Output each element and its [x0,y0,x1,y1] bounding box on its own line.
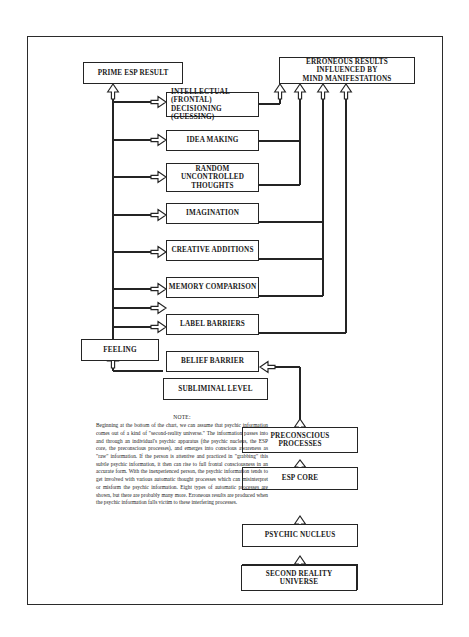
arrowhead-up-prime [108,84,119,99]
box-memory-comparison[interactable]: MEMORY COMPARISON [166,277,259,298]
box-psychic-nucleus[interactable]: PSYCHIC NUCLEUS [242,524,358,547]
box-second-reality-universe[interactable]: SECOND REALITY UNIVERSE [241,565,357,591]
arrowhead-right-8 [151,322,166,333]
box-label-barriers[interactable]: LABEL BARRIERS [166,314,259,335]
box-belief-barrier[interactable]: BELIEF BARRIER [166,351,259,372]
box-subliminal-level[interactable]: SUBLIMINAL LEVEL [163,378,268,400]
box-creative-additions[interactable]: CREATIVE ADDITIONS [166,240,259,261]
arrowhead-up-err-d [341,84,352,99]
box-idea-making[interactable]: IDEA MAKING [166,130,259,151]
arrowhead-up-err-c [318,84,329,99]
arrowhead-up-err-b [295,84,306,99]
note-body: Beginning at the bottom of the chart, we… [96,422,268,505]
note-heading: NOTE: [96,413,268,421]
box-imagination[interactable]: IMAGINATION [166,203,259,224]
arrowhead-right-7 [151,303,166,314]
diagram-frame: PRIME ESP RESULT ERRONEOUS RESULTS INFLU… [27,36,443,605]
box-erroneous-results[interactable]: ERRONEOUS RESULTS INFLUENCED BY MIND MAN… [279,57,415,84]
arrowhead-right-2 [151,135,166,146]
arrowhead-left-subliminal [260,362,275,373]
arrowhead-up-err-a [275,84,286,99]
box-feeling[interactable]: FEELING [81,339,159,361]
arrowhead-right-1 [151,97,166,108]
arrowhead-right-3 [151,172,166,183]
arrowhead-right-4 [151,210,166,221]
box-random-uncontrolled-thoughts[interactable]: RANDOM UNCONTROLLED THOUGHTS [166,163,259,192]
note-block: NOTE: Beginning at the bottom of the cha… [96,413,268,507]
arrowhead-right-6 [151,284,166,295]
box-intellectual-decisioning[interactable]: INTELLECTUAL (FRONTAL) DECISIONING (GUES… [166,92,259,117]
arrowhead-right-5 [151,247,166,258]
box-prime-esp-result[interactable]: PRIME ESP RESULT [83,62,183,84]
